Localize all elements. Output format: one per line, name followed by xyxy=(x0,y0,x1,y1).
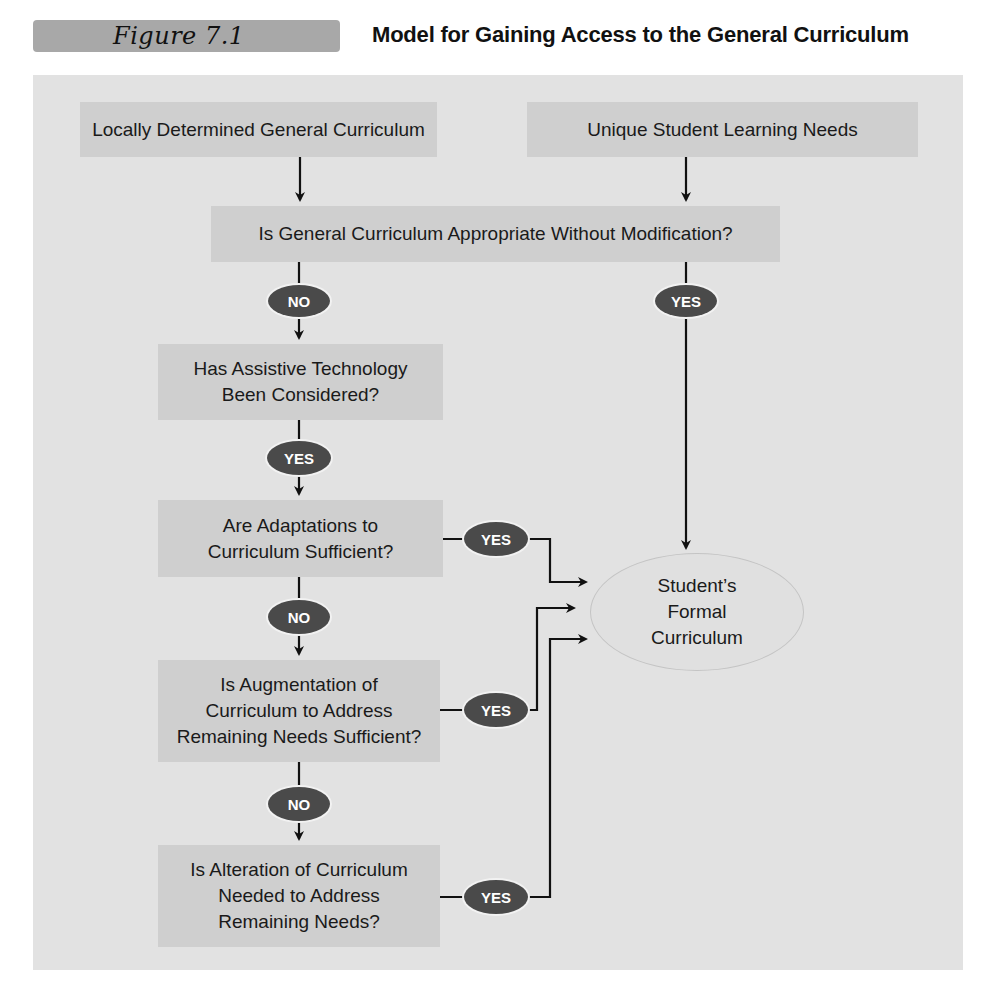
node-label-line: Curriculum to Address xyxy=(206,698,393,724)
node-label-line: Student’s xyxy=(658,573,737,599)
node-label-line: Are Adaptations to xyxy=(223,513,378,539)
decision-assistive-yes: YES xyxy=(267,441,331,475)
node-label-line: Curriculum Sufficient? xyxy=(208,539,394,565)
node-adaptations-question: Are Adaptations to Curriculum Sufficient… xyxy=(158,500,443,577)
node-label-line: Curriculum xyxy=(651,625,743,651)
node-label-line: Remaining Needs Sufficient? xyxy=(177,724,422,750)
decision-appropriate-no: NO xyxy=(268,285,330,317)
decision-augmentation-no: NO xyxy=(268,787,330,821)
node-label: Locally Determined General Curriculum xyxy=(92,117,425,143)
node-unique-needs: Unique Student Learning Needs xyxy=(527,102,918,157)
decision-alteration-yes: YES xyxy=(464,880,528,914)
node-label: Is General Curriculum Appropriate Withou… xyxy=(258,221,732,247)
node-label-line: Been Considered? xyxy=(222,382,379,408)
node-alteration-question: Is Alteration of Curriculum Needed to Ad… xyxy=(158,845,440,947)
node-assistive-question: Has Assistive Technology Been Considered… xyxy=(158,344,443,420)
node-label-line: Has Assistive Technology xyxy=(193,356,407,382)
node-label-line: Remaining Needs? xyxy=(218,909,380,935)
decision-adaptations-yes: YES xyxy=(464,522,528,556)
node-appropriate-question: Is General Curriculum Appropriate Withou… xyxy=(211,206,780,262)
node-augmentation-question: Is Augmentation of Curriculum to Address… xyxy=(158,660,440,762)
node-label-line: Is Augmentation of xyxy=(220,672,377,698)
node-formal-curriculum: Student’s Formal Curriculum xyxy=(590,553,804,671)
decision-adaptations-no: NO xyxy=(268,600,330,634)
decision-appropriate-yes: YES xyxy=(655,285,717,317)
decision-augmentation-yes: YES xyxy=(464,693,528,727)
node-label-line: Formal xyxy=(667,599,726,625)
node-label: Unique Student Learning Needs xyxy=(587,117,857,143)
node-label-line: Needed to Address xyxy=(218,883,380,909)
node-label-line: Is Alteration of Curriculum xyxy=(190,857,408,883)
node-local-curriculum: Locally Determined General Curriculum xyxy=(80,102,437,157)
